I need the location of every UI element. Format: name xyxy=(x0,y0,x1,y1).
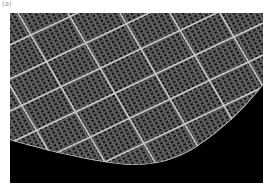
lattice-image xyxy=(10,13,263,183)
panel-label: (a) xyxy=(2,0,12,8)
